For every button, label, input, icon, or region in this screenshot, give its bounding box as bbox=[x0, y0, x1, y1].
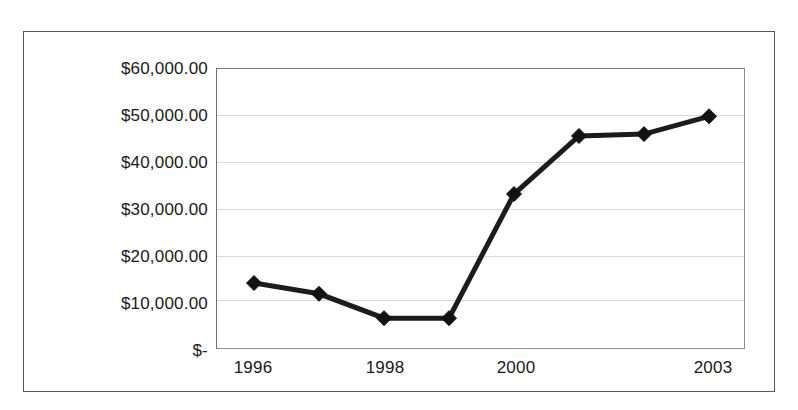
y-axis-tick-label: $50,000.00 bbox=[40, 107, 208, 124]
data-point-marker bbox=[377, 311, 392, 326]
data-point-marker bbox=[637, 127, 652, 142]
data-series-plot bbox=[217, 69, 746, 350]
x-axis-tick-label: 1996 bbox=[234, 358, 273, 378]
x-axis-tick-label: 1998 bbox=[366, 358, 405, 378]
x-axis-tick-label: 2003 bbox=[694, 358, 733, 378]
y-axis-tick-label: $20,000.00 bbox=[40, 248, 208, 265]
data-point-marker bbox=[702, 109, 717, 124]
y-axis-tick-label: $- bbox=[40, 342, 208, 359]
y-axis-tick-label: $10,000.00 bbox=[40, 295, 208, 312]
series-markers bbox=[247, 109, 717, 326]
y-axis-tick-label: $60,000.00 bbox=[40, 60, 208, 77]
data-point-marker bbox=[312, 286, 327, 301]
chart-figure: $60,000.00 $50,000.00 $40,000.00 $30,000… bbox=[0, 0, 798, 410]
y-axis-tick-label: $40,000.00 bbox=[40, 154, 208, 171]
x-axis: 1996 1998 2000 2003 bbox=[216, 358, 745, 386]
data-point-marker bbox=[247, 276, 262, 291]
x-axis-tick-label: 2000 bbox=[497, 358, 536, 378]
y-axis-tick-label: $30,000.00 bbox=[40, 201, 208, 218]
plot-area bbox=[216, 68, 745, 349]
series-line bbox=[254, 116, 709, 318]
y-axis: $60,000.00 $50,000.00 $40,000.00 $30,000… bbox=[40, 60, 208, 360]
